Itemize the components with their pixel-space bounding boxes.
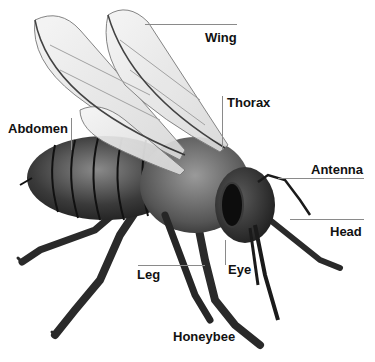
compound-eye <box>221 183 243 227</box>
honeybee-illustration <box>0 0 375 362</box>
wing-label: Wing <box>205 31 237 44</box>
leg-leader-line <box>138 265 205 266</box>
head-label: Head <box>330 225 362 238</box>
abdomen-label: Abdomen <box>8 122 68 135</box>
antenna-leader-line <box>278 178 364 179</box>
leg-label: Leg <box>137 268 160 281</box>
thorax-label: Thorax <box>227 96 270 109</box>
abdomen-leader-line <box>71 118 72 150</box>
thorax-leader-line <box>222 96 223 150</box>
honeybee-diagram: Wing Thorax Abdomen Antenna Head Leg Eye… <box>0 0 375 362</box>
wing-leader-line <box>145 24 237 25</box>
eye-label: Eye <box>228 263 251 276</box>
eye-leader-line <box>225 240 226 265</box>
diagram-caption: Honeybee <box>173 330 235 343</box>
head-leader-line <box>290 219 364 220</box>
antenna-label: Antenna <box>311 163 363 176</box>
